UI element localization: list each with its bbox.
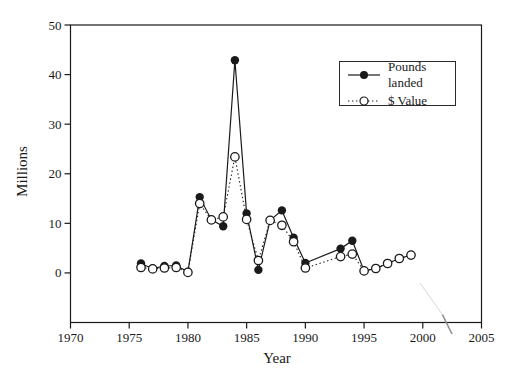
data-point-dollar-value (348, 250, 356, 258)
data-point-dollar-value (149, 265, 157, 273)
legend-marker-dollar-value (347, 96, 381, 106)
scan-artifact (442, 315, 452, 334)
legend-label-pounds-landed: Pounds landed (388, 59, 455, 91)
data-point-dollar-value (207, 216, 215, 224)
y-tick-label: 30 (49, 117, 62, 132)
data-point-dollar-value (242, 215, 250, 223)
x-tick-label: 1970 (58, 330, 84, 345)
legend-label-dollar-value: $ Value (388, 93, 427, 109)
legend-box: Pounds landed $ Value (339, 61, 456, 106)
y-axis-label: Millions (14, 122, 31, 222)
data-point-dollar-value (231, 153, 239, 161)
data-point-dollar-value (184, 268, 192, 276)
y-tick-label: 10 (49, 216, 62, 231)
data-point-dollar-value (383, 259, 391, 267)
data-point-dollar-value (196, 199, 204, 207)
x-tick-label: 1985 (234, 330, 260, 345)
x-tick-label: 1995 (351, 330, 377, 345)
y-tick-label: 0 (55, 265, 62, 280)
data-point-dollar-value (336, 252, 344, 260)
data-point-dollar-value (137, 263, 145, 271)
data-point-pounds-landed (219, 222, 227, 230)
x-axis-label: Year (227, 350, 327, 367)
data-point-dollar-value (372, 264, 380, 272)
legend-marker-pounds-landed (347, 70, 381, 80)
chart-figure: 0102030405019701975198019851990199520002… (0, 0, 514, 386)
legend-item-dollar-value: $ Value (347, 93, 455, 109)
data-point-dollar-value (395, 254, 403, 262)
x-tick-label: 1990 (292, 330, 318, 345)
data-point-dollar-value (172, 263, 180, 271)
data-point-pounds-landed (336, 244, 344, 252)
x-tick-label: 1980 (175, 330, 201, 345)
data-point-pounds-landed (348, 237, 356, 245)
data-point-dollar-value (360, 267, 368, 275)
x-tick-label: 2000 (410, 330, 436, 345)
data-point-dollar-value (254, 256, 262, 264)
data-point-dollar-value (289, 238, 297, 246)
y-tick-label: 40 (49, 67, 62, 82)
data-point-pounds-landed (278, 206, 286, 214)
y-tick-label: 50 (49, 18, 62, 33)
data-point-dollar-value (301, 264, 309, 272)
legend-item-pounds-landed: Pounds landed (347, 59, 455, 91)
data-point-dollar-value (278, 221, 286, 229)
data-point-dollar-value (266, 216, 274, 224)
data-point-dollar-value (160, 264, 168, 272)
x-tick-label: 2005 (469, 330, 495, 345)
data-point-dollar-value (219, 213, 227, 221)
data-point-pounds-landed (254, 266, 262, 274)
data-point-dollar-value (407, 251, 415, 259)
scan-artifact (420, 283, 442, 315)
data-point-pounds-landed (231, 56, 239, 64)
x-tick-label: 1975 (116, 330, 142, 345)
y-tick-label: 20 (49, 166, 62, 181)
